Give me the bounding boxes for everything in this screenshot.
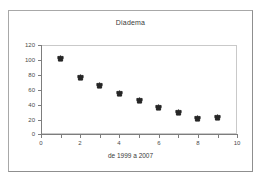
data-point [175,109,182,116]
data-point [57,55,64,62]
y-axis-tick [38,120,41,121]
y-axis-line [41,45,42,135]
x-axis-tick-minor [100,135,101,138]
x-axis-tick [159,135,160,138]
x-axis-tick [119,135,120,138]
y-axis-tick [38,105,41,106]
x-axis-tick [237,135,238,138]
x-axis-tick-label: 10 [230,140,244,146]
y-axis-tick [38,75,41,76]
x-axis-tick-minor [218,135,219,138]
x-axis-tick-minor [61,135,62,138]
chart-title: Diadema [9,19,252,26]
x-axis-tick-label: 0 [34,140,48,146]
data-point [96,82,103,89]
y-axis-tick [38,60,41,61]
chart-container[interactable]: Diadema 120 100 80 60 40 20 0 0 2 4 6 8 … [8,10,253,172]
data-point [155,104,162,111]
data-point [116,90,123,97]
x-axis-tick-label: 6 [152,140,166,146]
data-point [77,74,84,81]
x-axis-tick [198,135,199,138]
x-axis-tick-minor [178,135,179,138]
x-axis-tick-label: 2 [73,140,87,146]
y-axis-tick-label: 60 [11,87,35,93]
y-axis-tick-label: 80 [11,72,35,78]
y-axis-tick-label: 20 [11,117,35,123]
x-axis-tick-label: 4 [112,140,126,146]
y-axis-tick-label: 100 [11,57,35,63]
x-axis-tick [41,135,42,138]
y-axis-tick-label: 0 [11,131,35,137]
x-axis-tick-label: 8 [191,140,205,146]
data-point [135,97,142,104]
y-axis-tick-label: 120 [11,42,35,48]
plot-area [41,45,237,134]
y-axis-tick [38,90,41,91]
y-axis-tick [38,45,41,46]
x-axis-tick-minor [139,135,140,138]
x-axis-tick [80,135,81,138]
y-axis-tick-label: 40 [11,102,35,108]
x-axis-title: de 1999 a 2007 [9,152,252,159]
